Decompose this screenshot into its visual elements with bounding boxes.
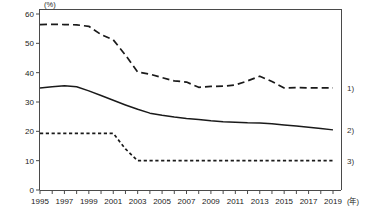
y-axis-tick-label: 10	[25, 157, 34, 166]
x-axis-tick-label: 1995	[31, 197, 49, 206]
x-axis-tick-label: 2001	[104, 197, 122, 206]
x-axis-tick-label: 2019	[324, 197, 342, 206]
series-line-1	[40, 24, 333, 88]
x-axis-tick-label: 1997	[56, 197, 74, 206]
x-axis-tick-label: 2005	[153, 197, 171, 206]
x-axis-tick-label: 2007	[178, 197, 196, 206]
y-axis-unit-label: (%)	[44, 0, 56, 9]
x-axis-tick-label: 2009	[202, 197, 220, 206]
x-axis-unit-label: (年)	[347, 196, 359, 206]
series-label-2: 2)	[347, 126, 354, 135]
series-line-2	[40, 86, 333, 130]
x-axis-tick-label: 2015	[275, 197, 293, 206]
y-axis-tick-label: 60	[25, 10, 34, 19]
series-label-3: 3)	[347, 157, 354, 166]
y-axis-tick-label: 50	[25, 39, 34, 48]
y-axis-tick-label: 30	[25, 98, 34, 107]
series-line-3	[40, 133, 333, 160]
series-label-1: 1)	[347, 84, 354, 93]
x-axis-tick-label: 2013	[251, 197, 269, 206]
x-axis-tick-label: 2011	[227, 197, 245, 206]
x-axis-tick-label: 2003	[129, 197, 147, 206]
x-axis-tick-label: 2017	[300, 197, 318, 206]
chart-container: 0102030405060(%)199519971999200120032005…	[0, 0, 365, 216]
x-axis-tick-label: 1999	[80, 197, 98, 206]
y-axis-tick-label: 0	[30, 186, 35, 195]
y-axis-tick-label: 20	[25, 127, 34, 136]
y-axis-tick-label: 40	[25, 69, 34, 78]
line-chart: 0102030405060(%)199519971999200120032005…	[0, 0, 365, 216]
